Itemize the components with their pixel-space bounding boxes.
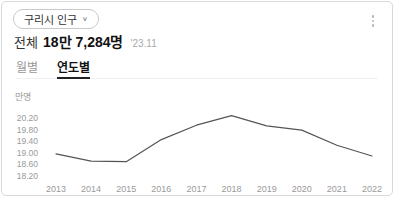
y-axis-tick-label: 18.20: [2, 171, 38, 181]
period-tabs: 월별 연도별: [16, 58, 378, 79]
x-axis-tick-label: 2022: [354, 184, 390, 194]
x-axis-tick-label: 2021: [319, 184, 355, 194]
total-population-row: 전체 18만 7,284명 '23.11: [14, 31, 157, 51]
region-selector-label: 구리시 인구: [24, 11, 77, 27]
x-axis-tick-label: 2018: [214, 184, 250, 194]
x-axis-tick-label: 2017: [178, 184, 214, 194]
region-selector-button[interactable]: 구리시 인구 ∨: [13, 9, 99, 29]
y-axis-tick-label: 19.00: [2, 148, 38, 158]
tab-yearly[interactable]: 연도별: [57, 58, 90, 79]
x-axis-tick-label: 2014: [73, 184, 109, 194]
tab-monthly[interactable]: 월별: [16, 58, 38, 78]
x-axis-tick-label: 2020: [284, 184, 320, 194]
y-axis-tick-label: 20.20: [2, 113, 38, 123]
y-axis-tick-label: 19.40: [2, 136, 38, 146]
kebab-menu-icon[interactable]: [366, 11, 380, 31]
y-axis-tick-label: 18.60: [2, 159, 38, 169]
x-axis-tick-label: 2019: [249, 184, 285, 194]
population-widget-card: 구리시 인구 ∨ 전체 18만 7,284명 '23.11 월별 연도별 만명 …: [1, 1, 393, 196]
total-label: 전체: [14, 32, 38, 51]
as-of-date: '23.11: [131, 38, 157, 49]
x-axis-tick-label: 2016: [143, 184, 179, 194]
y-axis-unit-label: 만명: [15, 90, 31, 103]
chevron-down-icon: ∨: [82, 15, 88, 22]
y-axis-tick-label: 19.80: [2, 125, 38, 135]
x-axis-tick-label: 2015: [108, 184, 144, 194]
x-axis-tick-label: 2013: [38, 184, 74, 194]
total-value: 18만 7,284명: [43, 31, 124, 51]
